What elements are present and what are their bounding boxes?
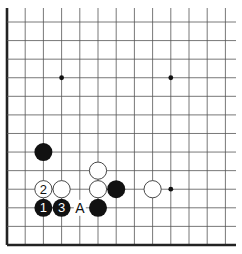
white-stone: [89, 162, 106, 179]
white-stone: [144, 181, 161, 198]
move-number-label: 1: [40, 200, 47, 215]
point-marker-label: A: [75, 200, 85, 216]
white-stone: [89, 181, 106, 198]
white-stone-icon: [53, 181, 70, 198]
black-stone-icon: [34, 143, 52, 161]
white-stone: 2: [35, 181, 52, 198]
move-number-label: 2: [40, 182, 47, 197]
black-stone: 3: [53, 199, 71, 217]
white-stone-icon: [89, 162, 106, 179]
star-point-icon: [168, 187, 173, 192]
star-point-icon: [168, 75, 173, 80]
black-stone-icon: [107, 180, 125, 198]
white-stone-icon: [144, 181, 161, 198]
black-stone: [89, 199, 107, 217]
star-point-icon: [59, 75, 64, 80]
white-stone-icon: [89, 181, 106, 198]
move-number-label: 3: [58, 200, 65, 215]
black-stone-icon: [89, 199, 107, 217]
black-stone: [107, 180, 125, 198]
markers: A: [74, 200, 86, 216]
white-stone: [53, 181, 70, 198]
black-stone: 1: [34, 199, 52, 217]
black-stone: [34, 143, 52, 161]
go-board: 213 A: [0, 0, 242, 254]
